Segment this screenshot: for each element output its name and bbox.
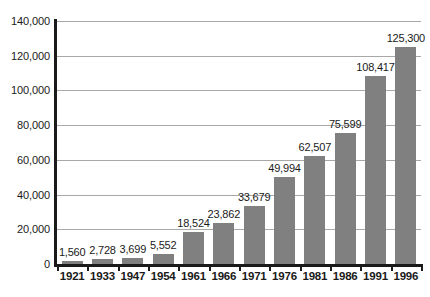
y-tick-label: 100,000 <box>11 84 50 96</box>
bar-value-label: 75,599 <box>329 118 361 130</box>
bar <box>92 259 113 264</box>
bar-value-label: 2,728 <box>89 244 116 256</box>
bar <box>183 232 204 264</box>
x-tick-label: 1921 <box>60 270 85 282</box>
x-tick-label: 1947 <box>120 270 145 282</box>
x-tick-label: 1971 <box>242 270 267 282</box>
x-axis-tick <box>87 264 89 271</box>
x-axis-tick <box>330 264 332 271</box>
x-axis-tick <box>269 264 271 271</box>
bar-chart: 020,00040,00060,00080,000100,000120,0001… <box>0 0 430 297</box>
bar-value-label: 23,862 <box>208 208 240 220</box>
x-axis-tick <box>300 264 302 271</box>
x-axis-tick <box>360 264 362 271</box>
x-axis-tick <box>391 264 393 271</box>
bar-value-label: 108,417 <box>356 61 394 73</box>
y-tick-label: 0 <box>44 258 50 270</box>
x-tick-label: 1933 <box>90 270 115 282</box>
x-tick-label: 1991 <box>363 270 388 282</box>
y-tick-label: 120,000 <box>11 50 50 62</box>
bar <box>213 223 234 264</box>
bar-value-label: 125,300 <box>387 32 425 44</box>
x-tick-label: 1966 <box>211 270 236 282</box>
x-axis-tick <box>118 264 120 271</box>
x-axis-tick <box>239 264 241 271</box>
y-axis-labels: 020,00040,00060,00080,000100,000120,0001… <box>0 0 50 297</box>
bar <box>365 76 386 264</box>
bar <box>335 133 356 264</box>
bar-value-label: 5,552 <box>150 239 177 251</box>
bar <box>274 177 295 264</box>
x-axis-tick <box>148 264 150 271</box>
bar <box>395 47 416 264</box>
bar-value-label: 3,699 <box>120 243 147 255</box>
bar-value-label: 62,507 <box>299 141 331 153</box>
bar <box>244 206 265 264</box>
x-axis-tick <box>209 264 211 271</box>
bar <box>304 156 325 264</box>
x-axis-tick <box>421 264 423 271</box>
bar <box>62 261 83 264</box>
y-tick-label: 40,000 <box>17 189 50 201</box>
y-tick-label: 140,000 <box>11 15 50 27</box>
y-tick-label: 80,000 <box>17 119 50 131</box>
y-tick-label: 60,000 <box>17 154 50 166</box>
bar-value-label: 49,994 <box>268 162 300 174</box>
bar-value-label: 33,679 <box>238 191 270 203</box>
x-tick-label: 1976 <box>272 270 297 282</box>
bar-value-label: 1,560 <box>59 246 86 258</box>
x-axis-line <box>54 264 421 267</box>
bar-value-label: 18,524 <box>177 217 209 229</box>
x-tick-label: 1981 <box>302 270 327 282</box>
x-tick-label: 1996 <box>393 270 418 282</box>
x-tick-label: 1961 <box>181 270 206 282</box>
bars-layer <box>57 21 421 264</box>
bar <box>122 258 143 264</box>
x-axis-tick <box>57 264 59 271</box>
x-tick-label: 1986 <box>333 270 358 282</box>
y-tick-label: 20,000 <box>17 223 50 235</box>
bar <box>153 254 174 264</box>
x-tick-label: 1954 <box>151 270 176 282</box>
x-axis-tick <box>178 264 180 271</box>
